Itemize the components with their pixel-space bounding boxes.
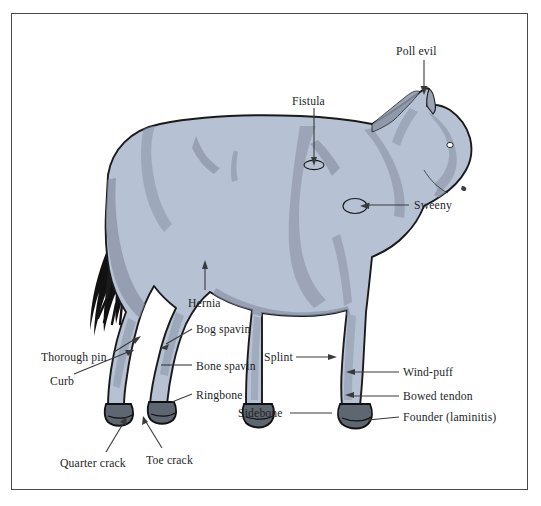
- label-poll-evil: Poll evil: [396, 46, 437, 58]
- label-founder-laminitis: Founder (laminitis): [403, 412, 496, 424]
- label-splint: Splint: [264, 352, 293, 364]
- label-hernia: Hernia: [188, 298, 221, 310]
- label-fistula: Fistula: [292, 96, 325, 108]
- label-wind-puff: Wind-puff: [403, 367, 453, 379]
- label-curb: Curb: [50, 376, 74, 388]
- label-sidebone: Sidebone: [238, 408, 283, 420]
- label-toe-crack: Toe crack: [146, 455, 193, 467]
- label-sweeny: Sweeny: [414, 200, 452, 212]
- label-bone-spavin: Bone spavin: [196, 361, 256, 373]
- label-thorough-pin: Thorough pin: [41, 352, 107, 364]
- label-ringbone: Ringbone: [196, 390, 243, 402]
- label-bowed-tendon: Bowed tendon: [403, 391, 473, 403]
- label-quarter-crack: Quarter crack: [60, 458, 126, 470]
- label-bog-spavin: Bog spavin: [196, 324, 250, 336]
- diagram-canvas: Poll evil Fistula Sweeny Hernia Bog spav…: [0, 0, 541, 506]
